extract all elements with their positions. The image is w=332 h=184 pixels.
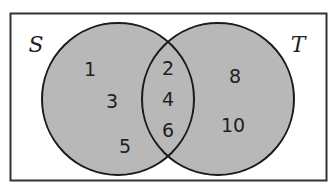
set-s-element: 3 bbox=[106, 90, 118, 112]
set-s-element: 1 bbox=[84, 58, 96, 80]
intersection-element: 4 bbox=[162, 88, 174, 110]
intersection-element: 2 bbox=[162, 57, 174, 79]
intersection-element: 6 bbox=[162, 119, 174, 141]
venn-diagram: S T 1 3 5 2 4 6 8 10 bbox=[0, 0, 332, 184]
set-s-element: 5 bbox=[119, 135, 131, 157]
set-s-label: S bbox=[28, 32, 43, 57]
set-t-element: 10 bbox=[221, 114, 245, 136]
set-t-label: T bbox=[291, 32, 308, 57]
set-t-element: 8 bbox=[229, 65, 241, 87]
